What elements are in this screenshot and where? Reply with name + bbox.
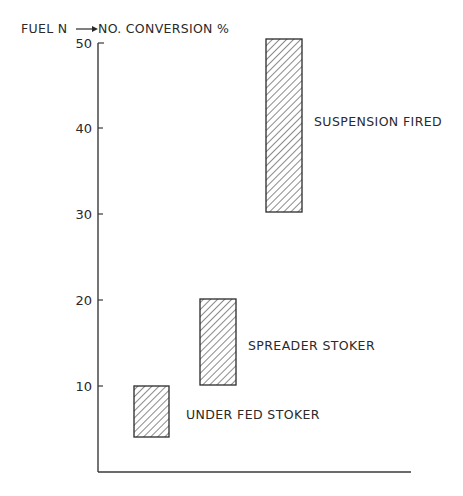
bar-suspension-fired	[266, 39, 302, 212]
y-ticks	[98, 43, 104, 386]
label-spreader-stoker: SPREADER STOKER	[248, 338, 375, 353]
range-bar-chart: FUEL N NO. CONVERSION % 50 40 30 20 10 U…	[0, 0, 463, 496]
y-tick-label-50: 50	[75, 36, 92, 51]
bar-under-fed-stoker	[134, 386, 169, 437]
y-tick-label-30: 30	[75, 207, 92, 222]
y-axis-title-right: NO. CONVERSION %	[98, 21, 229, 36]
y-axis-title-left: FUEL N	[21, 21, 67, 36]
label-suspension-fired: SUSPENSION FIRED	[314, 114, 442, 129]
y-tick-label-20: 20	[75, 293, 92, 308]
y-tick-label-40: 40	[75, 121, 92, 136]
arrow-icon	[76, 26, 98, 32]
y-tick-label-10: 10	[75, 379, 92, 394]
label-under-fed-stoker: UNDER FED STOKER	[186, 407, 320, 422]
bar-spreader-stoker	[200, 299, 236, 385]
